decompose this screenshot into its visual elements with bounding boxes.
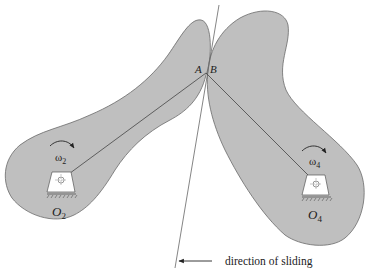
left-cam-body	[5, 20, 210, 219]
cam-contact-diagram: A B O2 ω2 O4 ω4 direc	[0, 0, 379, 277]
right-cam-body	[207, 11, 364, 245]
pivot-block-icon	[302, 175, 329, 195]
sliding-direction-label: direction of sliding	[225, 255, 313, 268]
label-b: B	[210, 63, 217, 75]
label-a: A	[194, 63, 202, 75]
